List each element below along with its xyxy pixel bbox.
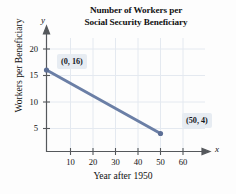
x-tick-label-40: 40: [129, 157, 147, 167]
data-point-marker-end: [158, 131, 163, 136]
y-axis-title: Workers per Beneficiary: [13, 1, 24, 131]
x-axis-title: Year after 1950: [36, 170, 210, 181]
x-tick-label-30: 30: [107, 157, 125, 167]
chart-figure: Number of Workers per Social Security Be…: [0, 0, 236, 194]
x-tick-label-20: 20: [84, 157, 102, 167]
x-tick-label-60: 60: [174, 157, 192, 167]
y-axis-variable: y: [41, 15, 45, 25]
gridlines-vertical: [71, 38, 184, 152]
data-point-marker-start: [44, 67, 49, 72]
point-label-end: (50, 4): [182, 113, 212, 128]
point-label-start: (0, 16): [57, 54, 87, 69]
y-axis: [43, 26, 49, 152]
x-axis-variable: x: [215, 144, 219, 154]
x-tick-label-50: 50: [152, 157, 170, 167]
x-tick-label-10: 10: [62, 157, 80, 167]
